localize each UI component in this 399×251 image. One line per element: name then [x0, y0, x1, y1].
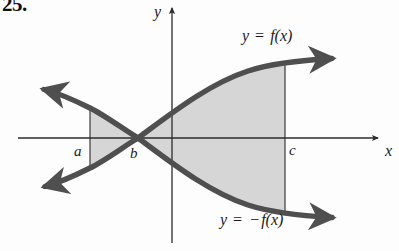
curve-label-negf-minus: −	[248, 211, 261, 228]
curve-label-negf-equals: =	[231, 211, 244, 228]
curve-label-negf-expr: f(x)	[261, 211, 283, 228]
x-axis-label: x	[385, 143, 392, 159]
curve-label-negative-f: y = −f(x)	[220, 212, 283, 228]
graph-canvas	[0, 0, 399, 251]
y-axis-label: y	[154, 4, 161, 20]
curve-label-f-expr: f(x)	[270, 27, 292, 44]
shaded-regions	[90, 63, 285, 211]
curve-label-f-y: y	[242, 27, 249, 44]
curve-label-f: y = f(x)	[242, 28, 292, 44]
point-label-a: a	[74, 144, 82, 159]
point-label-b: b	[130, 146, 138, 161]
curve-label-f-equals: =	[253, 27, 266, 44]
curve-label-negf-y: y	[220, 211, 227, 228]
point-label-c: c	[289, 143, 296, 158]
figure-container: 25.	[0, 0, 399, 251]
